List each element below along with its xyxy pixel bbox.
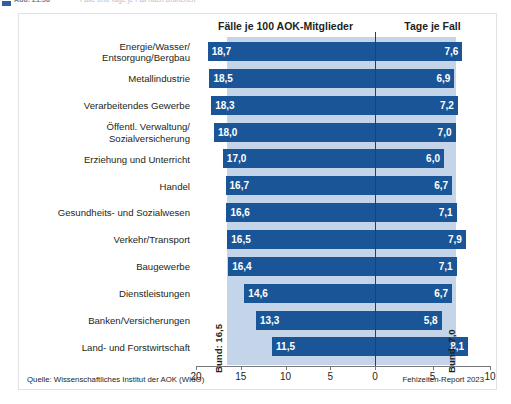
chart-row: Gesundheits- und Sozialwesen16,67,1 bbox=[0, 203, 511, 230]
category-label: Erziehung und Unterricht bbox=[25, 154, 190, 165]
bar-value-faelle: 13,3 bbox=[260, 311, 279, 330]
chart-row: Baugewerbe16,47,1 bbox=[0, 257, 511, 284]
category-label: Baugewerbe bbox=[25, 261, 190, 272]
bar-value-tage: 6,7 bbox=[426, 284, 448, 303]
chart-row: Land- und Forstwirtschaft11,58,1 bbox=[0, 337, 511, 364]
chart-row: Erziehung und Unterricht17,06,0 bbox=[0, 149, 511, 176]
bar-value-faelle: 16,5 bbox=[231, 230, 250, 249]
tick-mark bbox=[433, 366, 434, 370]
column-header-right: Tage je Fall bbox=[375, 20, 490, 32]
bar-value-faelle: 16,6 bbox=[230, 203, 249, 222]
chart-plot-area: Fälle je 100 AOK-Mitglieder Tage je Fall… bbox=[0, 0, 511, 404]
category-label: Metallindustrie bbox=[25, 73, 190, 84]
category-label: Verarbeitendes Gewerbe bbox=[25, 100, 190, 111]
category-label: Gesundheits- und Sozialwesen bbox=[25, 207, 190, 218]
column-header-left: Fälle je 100 AOK-Mitglieder bbox=[196, 20, 375, 32]
bar-value-faelle: 18,7 bbox=[212, 42, 231, 61]
category-label: Banken/Versicherungen bbox=[25, 315, 190, 326]
bar-value-faelle: 11,5 bbox=[276, 337, 295, 356]
bar-faelle bbox=[209, 69, 375, 88]
tick-label-left: 15 bbox=[226, 371, 256, 382]
tick-mark bbox=[196, 366, 197, 370]
bar-faelle bbox=[208, 42, 375, 61]
bar-faelle bbox=[211, 96, 375, 115]
tick-label-left: 5 bbox=[315, 371, 345, 382]
bar-value-faelle: 16,4 bbox=[232, 257, 251, 276]
bar-value-tage: 7,6 bbox=[436, 42, 458, 61]
tick-label-left: 10 bbox=[271, 371, 301, 382]
chart-row: Metallindustrie18,56,9 bbox=[0, 69, 511, 96]
bar-value-tage: 7,9 bbox=[440, 230, 462, 249]
bar-value-faelle: 18,5 bbox=[213, 69, 232, 88]
tick-label-left: 0 bbox=[360, 371, 390, 382]
category-label: Energie/Wasser/ Entsorgung/Bergbau bbox=[25, 41, 190, 63]
bar-value-faelle: 14,6 bbox=[248, 284, 267, 303]
bar-value-tage: 7,1 bbox=[431, 203, 453, 222]
category-label: Verkehr/Transport bbox=[25, 234, 190, 245]
bar-value-faelle: 17,0 bbox=[227, 149, 246, 168]
zero-axis-line bbox=[375, 32, 376, 368]
bar-value-tage: 5,8 bbox=[416, 311, 438, 330]
bar-value-tage: 6,0 bbox=[418, 149, 440, 168]
bar-value-tage: 7,2 bbox=[432, 96, 454, 115]
chart-row: Verarbeitendes Gewerbe18,37,2 bbox=[0, 96, 511, 123]
chart-row: Öffentl. Verwaltung/ Sozialversicherung1… bbox=[0, 123, 511, 150]
tick-mark bbox=[286, 366, 287, 370]
chart-row: Banken/Versicherungen13,35,8 bbox=[0, 311, 511, 338]
category-label: Dienstleistungen bbox=[25, 288, 190, 299]
tick-mark bbox=[375, 366, 376, 370]
bar-value-tage: 6,7 bbox=[426, 176, 448, 195]
tick-mark bbox=[490, 366, 491, 370]
tick-mark bbox=[241, 366, 242, 370]
chart-row: Dienstleistungen14,66,7 bbox=[0, 284, 511, 311]
bar-value-faelle: 16,7 bbox=[230, 176, 249, 195]
bar-value-faelle: 18,3 bbox=[215, 96, 234, 115]
chart-row: Verkehr/Transport16,57,9 bbox=[0, 230, 511, 257]
report-note: Fehlzeiten-Report 2023 bbox=[403, 375, 484, 384]
category-label: Öffentl. Verwaltung/ Sozialversicherung bbox=[25, 121, 190, 143]
chart-row: Handel16,76,7 bbox=[0, 176, 511, 203]
bar-value-faelle: 18,0 bbox=[218, 123, 237, 142]
category-label: Handel bbox=[25, 181, 190, 192]
tick-mark bbox=[330, 366, 331, 370]
chart-row: Energie/Wasser/ Entsorgung/Bergbau18,77,… bbox=[0, 42, 511, 69]
category-label: Land- und Forstwirtschaft bbox=[25, 342, 190, 353]
bar-value-tage: 7,0 bbox=[430, 123, 452, 142]
bar-value-tage: 6,9 bbox=[428, 69, 450, 88]
bar-value-tage: 7,1 bbox=[431, 257, 453, 276]
source-note: Quelle: Wissenschaftliches Institut der … bbox=[27, 375, 204, 384]
bar-faelle bbox=[214, 123, 375, 142]
